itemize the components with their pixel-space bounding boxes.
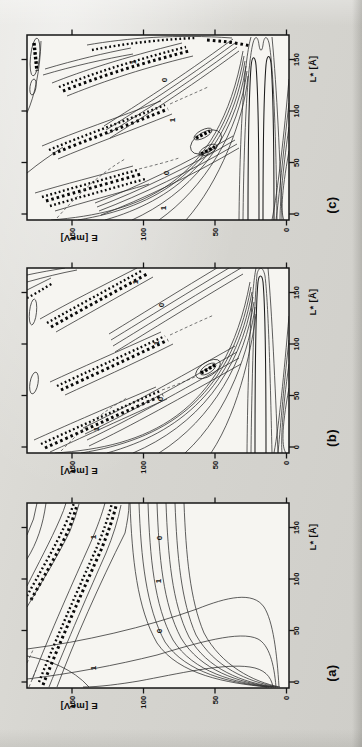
length-axis-title: L* [Å] xyxy=(307,288,318,315)
y-tick-label: 100 xyxy=(292,337,301,350)
energy-axis-title: E [meV] xyxy=(60,233,97,244)
y-tick-label: 0 xyxy=(292,680,301,684)
x-tick-label: 100 xyxy=(139,228,148,241)
contour-level-label: 1 xyxy=(152,340,161,345)
y-tick-label: 150 xyxy=(292,521,301,534)
contour-level-label: 1 xyxy=(159,205,168,210)
y-tick-label: 0 xyxy=(292,212,301,216)
y-tick-label: 50 xyxy=(292,391,301,400)
x-tick-label: 100 xyxy=(139,461,148,474)
contour-panel-b: 050100150050100150 10101 E [meV] L* [Å] … xyxy=(0,262,362,482)
contour-panel-c: 050100150050100150 10101 E [meV] L* [Å] … xyxy=(0,29,362,249)
x-tick-label: 0 xyxy=(282,461,291,465)
y-tick-label: 150 xyxy=(292,286,301,299)
figure-scan: 050100150050100150 10101 E [meV] L* [Å] … xyxy=(0,0,362,747)
contour-level-label: 0 xyxy=(160,77,169,82)
contour-level-label: 1 xyxy=(89,534,98,539)
x-tick-label: 100 xyxy=(139,696,148,709)
contour-level-label: 1 xyxy=(154,578,163,583)
contour-level-label: 0 xyxy=(162,170,171,175)
energy-axis-title: E [meV] xyxy=(60,701,97,712)
panel-tag-b: (b) xyxy=(324,429,339,447)
y-tick-label: 100 xyxy=(292,104,301,117)
y-tick-label: 0 xyxy=(292,445,301,449)
x-tick-label: 0 xyxy=(282,696,291,700)
contour-panel-a: 050100150050100150 10101 E [meV] L* [Å] … xyxy=(0,497,362,717)
contour-level-label: 0 xyxy=(155,535,164,540)
x-tick-label: 0 xyxy=(282,228,291,232)
y-tick-label: 100 xyxy=(292,572,301,585)
panel-tag-a: (a) xyxy=(324,664,339,681)
contour-level-label: 1 xyxy=(131,279,140,284)
x-tick-label: 50 xyxy=(211,461,220,470)
contour-level-label: 1 xyxy=(129,59,138,64)
y-tick-label: 50 xyxy=(292,158,301,167)
contour-level-label: 0 xyxy=(156,396,165,401)
contour-level-label: 0 xyxy=(155,628,164,633)
panel-tag-c: (c) xyxy=(324,196,339,213)
contour-level-label: 1 xyxy=(89,665,98,670)
x-tick-label: 50 xyxy=(211,228,220,237)
length-axis-title: L* [Å] xyxy=(307,55,318,82)
contour-level-label: 1 xyxy=(92,426,101,431)
x-tick-label: 50 xyxy=(211,696,220,705)
contour-level-label: 1 xyxy=(168,117,177,122)
contour-level-label: 0 xyxy=(157,302,166,307)
y-tick-label: 50 xyxy=(292,626,301,635)
y-tick-label: 150 xyxy=(292,53,301,66)
energy-axis-title: E [meV] xyxy=(60,466,97,477)
length-axis-title: L* [Å] xyxy=(307,523,318,550)
